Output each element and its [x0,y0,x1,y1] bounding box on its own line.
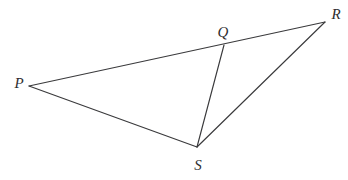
vertex-label-r: R [330,6,340,22]
segment-sr [197,22,325,147]
segment-pr [29,22,325,86]
segment-qs [197,45,224,147]
vertex-label-s: S [194,157,202,173]
segment-ps [29,86,197,147]
geometry-canvas: P Q R S [0,0,348,180]
geometry-diagram: P Q R S [0,0,348,180]
vertex-label-q: Q [218,24,229,40]
vertex-label-p: P [13,75,23,91]
